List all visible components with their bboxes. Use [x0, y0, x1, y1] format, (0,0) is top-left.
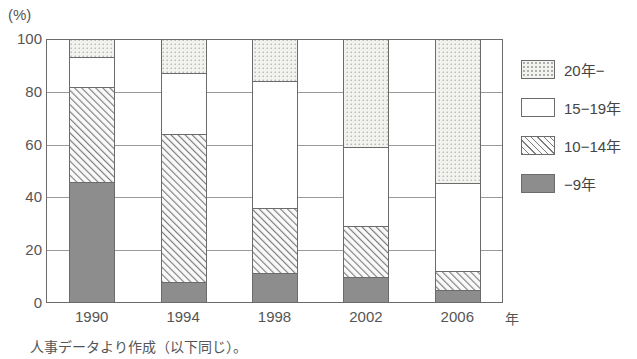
- bar-1994: [162, 40, 207, 304]
- bar-segment-1990-20年−: [70, 40, 115, 58]
- bar-2002: [344, 40, 389, 304]
- bar-segment-2002-20年−: [344, 40, 389, 148]
- legend-swatch-under9: [521, 174, 555, 193]
- plot-area: [46, 39, 503, 303]
- bar-2006: [436, 40, 481, 304]
- bar-segment-1998-15−19年: [253, 82, 298, 209]
- y-tick-label-80: 80: [4, 84, 42, 99]
- x-tick-label-1994: 1994: [148, 308, 218, 325]
- bar-segment-1998-10−14年: [253, 209, 298, 274]
- legend-label-4: −9年: [564, 173, 596, 194]
- legend-swatch-15-19: [521, 98, 555, 117]
- bar-segment-1994-10−14年: [162, 135, 207, 283]
- legend-item-2[interactable]: 15−19年: [521, 88, 633, 126]
- x-axis-unit-label: 年: [505, 308, 519, 328]
- legend-item-3[interactable]: 10−14年: [521, 126, 633, 164]
- bar-segment-2006-20年−: [436, 40, 481, 184]
- bar-segment-2002-−9年: [344, 278, 389, 304]
- y-tick-label-0: 0: [4, 295, 42, 310]
- legend-item-1[interactable]: 20年−: [521, 50, 633, 88]
- x-tick-label-2002: 2002: [331, 308, 401, 325]
- bar-1990: [70, 40, 115, 304]
- figure: (%) 020406080100: [0, 0, 637, 359]
- bar-segment-1998-20年−: [253, 40, 298, 82]
- y-tick-label-60: 60: [4, 137, 42, 152]
- legend-label-2: 15−19年: [564, 97, 621, 118]
- bar-segment-2002-10−14年: [344, 227, 389, 278]
- bar-series-group: [70, 40, 481, 304]
- y-tick-label-20: 20: [4, 242, 42, 257]
- x-tick-label-1990: 1990: [57, 308, 127, 325]
- x-tick-label-2006: 2006: [422, 308, 492, 325]
- bar-segment-2006-15−19年: [436, 184, 481, 272]
- y-axis-tick-labels: 020406080100: [0, 0, 42, 359]
- legend-swatch-20plus: [521, 60, 555, 79]
- legend-label-3: 10−14年: [564, 135, 621, 156]
- bar-segment-1998-−9年: [253, 274, 298, 304]
- bar-segment-2006-10−14年: [436, 272, 481, 291]
- bar-segment-1990-10−14年: [70, 88, 115, 183]
- bar-segment-1994-15−19年: [162, 74, 207, 135]
- bar-segment-2006-−9年: [436, 291, 481, 304]
- bar-segment-2002-15−19年: [344, 148, 389, 227]
- bar-1998: [253, 40, 298, 304]
- y-tick-label-100: 100: [4, 31, 42, 46]
- bar-segment-1990-15−19年: [70, 58, 115, 88]
- legend-item-4[interactable]: −9年: [521, 164, 633, 202]
- bar-segment-1990-−9年: [70, 183, 115, 304]
- legend: 20年−15−19年10−14年−9年: [521, 50, 633, 202]
- figure-footnote: 人事データより作成（以下同じ）。: [30, 336, 247, 356]
- stacked-bar-chart: [46, 39, 503, 303]
- bar-segment-1994-−9年: [162, 283, 207, 304]
- bar-segment-1994-20年−: [162, 40, 207, 74]
- y-tick-label-40: 40: [4, 189, 42, 204]
- x-axis-tick-labels: 19901994199820022006: [46, 308, 503, 330]
- legend-swatch-10-14: [521, 136, 555, 155]
- legend-label-1: 20年−: [564, 59, 604, 80]
- x-tick-label-1998: 1998: [240, 308, 310, 325]
